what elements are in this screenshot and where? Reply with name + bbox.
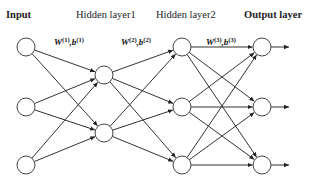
edge-input-2-to-hidden1-1 [34, 137, 95, 162]
neuron-input-1 [17, 98, 35, 116]
edge-input-0-to-hidden1-0 [34, 50, 95, 72]
edge-input-1-to-hidden1-0 [34, 79, 95, 104]
edge-input-0-to-hidden1-1 [32, 54, 98, 126]
neuron-hidden1-1 [95, 124, 113, 142]
neural-network-diagram: Input Hidden layer1 Hidden layer2 Output… [0, 0, 311, 186]
layer-labels: Input Hidden layer1 Hidden layer2 Output… [6, 9, 302, 20]
weight-label-1: W(1),b(1) [54, 36, 84, 47]
neuron-hidden2-2 [173, 156, 191, 174]
layer-label-output: Output layer [244, 9, 302, 20]
neuron-output-0 [253, 38, 271, 56]
edge-input-2-to-hidden1-0 [32, 82, 98, 158]
layer-label-hidden2: Hidden layer2 [156, 9, 216, 20]
edge-hidden1-1-to-hidden2-0 [110, 54, 176, 126]
weight-labels: W(1),b(1) W(2),b(2) W(3),b(3) [54, 36, 236, 47]
neuron-hidden2-0 [173, 38, 191, 56]
neuron-input-0 [17, 38, 35, 56]
edge-hidden1-1-to-hidden2-2 [112, 136, 173, 161]
neuron-output-2 [253, 156, 271, 174]
neuron-output-1 [253, 98, 271, 116]
weight-label-2: W(2),b(2) [121, 36, 151, 47]
neuron-hidden2-1 [173, 98, 191, 116]
neuron-hidden1-0 [95, 66, 113, 84]
layer-label-hidden1: Hidden layer1 [76, 9, 136, 20]
edge-hidden1-0-to-hidden2-0 [112, 50, 173, 72]
neuron-input-2 [17, 156, 35, 174]
layer-label-input: Input [6, 9, 32, 20]
weight-label-3: W(3),b(3) [206, 36, 236, 47]
connections [32, 47, 289, 165]
